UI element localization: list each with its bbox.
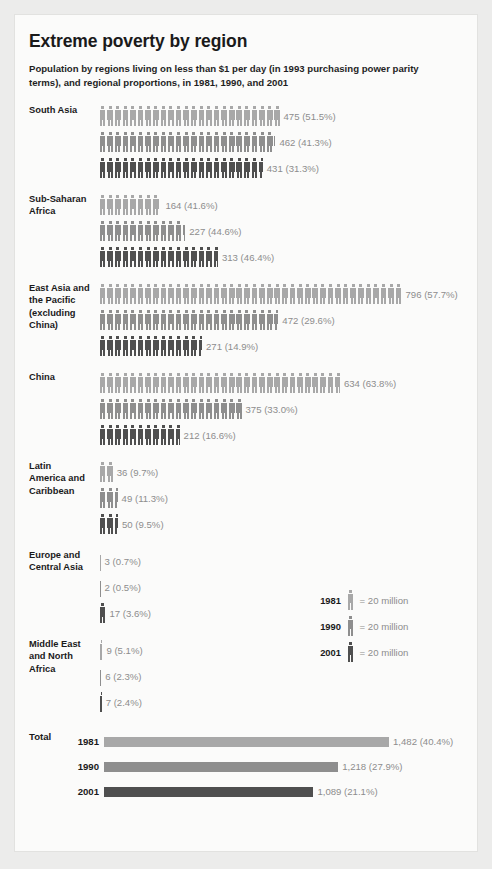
person-figure-icon [198, 106, 206, 127]
person-figure-icon [145, 195, 153, 216]
person-figure-icon [99, 132, 107, 153]
pictogram-row [99, 310, 278, 331]
value-label: 431 (31.3%) [263, 163, 319, 174]
person-figure-icon [198, 336, 202, 357]
total-year-label: 2001 [69, 786, 104, 797]
person-figure-icon [175, 425, 180, 446]
region-block: Sub-SaharanAfrica164 (41.6%)227 (44.6%)3… [29, 192, 463, 270]
total-bar [104, 737, 389, 747]
person-figure-icon [213, 158, 221, 179]
person-figure-icon [107, 336, 115, 357]
person-figure-icon [99, 692, 102, 713]
person-figure-icon [122, 106, 130, 127]
person-figure-icon [129, 284, 137, 305]
data-row: 375 (33.0%) [99, 396, 463, 422]
total-bar-row: 19811,482 (40.4%) [69, 729, 463, 754]
person-figure-icon [145, 247, 153, 268]
person-figure-icon [266, 310, 274, 331]
person-figure-icon [266, 284, 274, 305]
person-figure-icon [190, 336, 198, 357]
person-figure-icon [289, 373, 297, 394]
total-rows: 19811,482 (40.4%)19901,218 (27.9%)20011,… [69, 729, 463, 804]
person-figure-icon [228, 106, 236, 127]
value-label: 796 (57.7%) [401, 289, 457, 300]
region-label: LatinAmerica andCaribbean [29, 459, 99, 497]
person-figure-icon [145, 425, 153, 446]
person-figure-icon [221, 373, 229, 394]
person-figure-icon [129, 158, 137, 179]
person-figure-icon [167, 425, 175, 446]
person-figure-icon [327, 284, 335, 305]
person-figure-icon [274, 132, 276, 153]
person-figure-icon [183, 336, 191, 357]
person-figure-icon [312, 284, 320, 305]
person-figure-icon [319, 284, 327, 305]
person-figure-icon [266, 106, 274, 127]
person-figure-icon [107, 373, 115, 394]
person-figure-icon [205, 284, 213, 305]
person-figure-icon [145, 310, 153, 331]
person-figure-icon [205, 373, 213, 394]
region-label: East Asia andthe Pacific(excludingChina) [29, 281, 99, 331]
person-figure-icon [145, 284, 153, 305]
region-label: Europe andCentral Asia [29, 548, 99, 574]
value-label: 462 (41.3%) [275, 137, 331, 148]
value-label: 36 (9.7%) [113, 467, 159, 478]
value-label: 17 (3.6%) [105, 608, 151, 619]
region-block: East Asia andthe Pacific(excludingChina)… [29, 281, 463, 359]
legend-year-label: 2001 [311, 647, 341, 658]
person-figure-icon [122, 284, 130, 305]
data-row: 227 (44.6%) [99, 218, 463, 244]
pictogram-row [99, 577, 101, 598]
person-figure-icon [137, 106, 145, 127]
page-title: Extreme poverty by region [29, 31, 463, 52]
person-figure-icon [160, 399, 168, 420]
person-figure-icon [99, 425, 107, 446]
person-figure-icon [380, 284, 388, 305]
person-figure-icon [304, 284, 312, 305]
person-figure-icon [213, 247, 218, 268]
person-figure-icon [213, 310, 221, 331]
person-figure-icon [114, 336, 122, 357]
person-figure-icon [137, 399, 145, 420]
person-figure-icon [107, 284, 115, 305]
person-figure-icon [167, 158, 175, 179]
pictogram-row [99, 551, 101, 572]
value-label: 227 (44.6%) [185, 226, 241, 237]
legend: 1981= 20 million1990= 20 million2001= 20… [311, 587, 461, 665]
person-figure-icon [251, 373, 259, 394]
person-figure-icon [175, 158, 183, 179]
person-figure-icon [274, 106, 280, 127]
region-rows: 36 (9.7%)49 (11.3%)50 (9.5%) [99, 459, 463, 537]
person-figure-icon [167, 310, 175, 331]
person-figure-icon [99, 514, 107, 535]
person-figure-icon [243, 284, 251, 305]
person-figure-icon [99, 195, 107, 216]
person-figure-icon [114, 221, 122, 242]
legend-unit-label: = 20 million [360, 621, 409, 632]
pictogram-row [99, 106, 280, 127]
person-figure-icon [129, 195, 137, 216]
region-block: South Asia475 (51.5%)462 (41.3%)431 (31.… [29, 103, 463, 181]
person-figure-icon [198, 399, 206, 420]
person-figure-icon [175, 247, 183, 268]
person-figure-icon [114, 399, 122, 420]
person-figure-icon [152, 336, 160, 357]
person-figure-icon [258, 373, 266, 394]
total-bar [104, 762, 338, 772]
value-label: 3 (0.7%) [101, 556, 141, 567]
person-figure-icon [274, 310, 279, 331]
person-figure-icon [107, 132, 115, 153]
person-figure-icon [319, 373, 327, 394]
person-figure-icon [114, 310, 122, 331]
person-figure-icon [183, 373, 191, 394]
person-figure-icon [258, 310, 266, 331]
person-figure-icon [251, 158, 259, 179]
person-figure-icon [107, 514, 115, 535]
person-figure-icon [114, 106, 122, 127]
person-figure-icon [296, 373, 304, 394]
person-figure-icon [221, 310, 229, 331]
person-figure-icon [99, 106, 107, 127]
region-label: Sub-SaharanAfrica [29, 192, 99, 218]
value-label: 49 (11.3%) [118, 493, 168, 504]
